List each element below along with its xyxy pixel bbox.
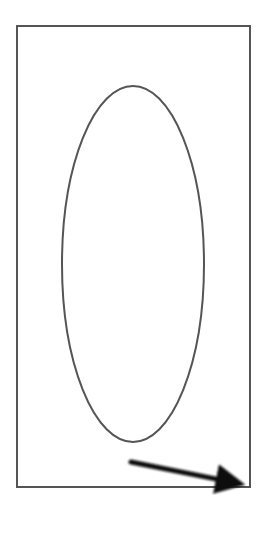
diagram-canvas [0, 0, 268, 538]
diagram-figure [0, 0, 268, 538]
inner-ellipse [62, 86, 204, 442]
outer-rectangle [17, 26, 250, 487]
arrow [131, 462, 238, 483]
